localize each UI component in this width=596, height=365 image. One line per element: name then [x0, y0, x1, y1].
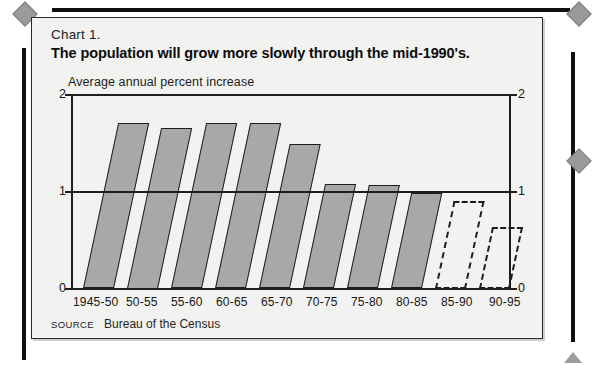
chart-card: Chart 1. The population will grow more s… — [31, 17, 543, 339]
y-tick-left-2 — [65, 94, 72, 96]
x-tick-label-60-65: 60-65 — [216, 295, 248, 309]
corner-diamond-top-right — [566, 1, 591, 26]
bar-70-75 — [303, 184, 356, 288]
x-axis-labels: 1945-50 50-55 55-60 60-65 65-70 70-75 75… — [71, 295, 517, 313]
plot-area — [71, 94, 511, 290]
y-tick-left-0 — [65, 288, 72, 290]
x-tick-label-80-85: 80-85 — [396, 295, 428, 309]
source-note: SOURCE Bureau of the Census — [51, 317, 220, 331]
edge-triangle-bottom-right — [564, 352, 582, 363]
right-black-rule — [571, 52, 575, 342]
y-tick-right-0 — [510, 288, 517, 290]
y-tick-label-left-1: 1 — [50, 184, 66, 198]
chart-number: Chart 1. — [51, 27, 101, 42]
y-tick-right-2 — [510, 94, 517, 96]
bar-80-85 — [391, 193, 442, 288]
y-tick-label-right-0: 0 — [518, 281, 534, 295]
y-tick-label-left-0: 0 — [50, 281, 66, 295]
y-tick-left-1 — [65, 191, 72, 193]
y-tick-label-right-2: 2 — [518, 87, 534, 101]
x-tick-label-75-80: 75-80 — [351, 295, 383, 309]
x-tick-label-50-55: 50-55 — [126, 295, 158, 309]
bar-75-80 — [347, 185, 400, 288]
y-axis-caption: Average annual percent increase — [68, 75, 254, 89]
top-black-rule — [52, 8, 570, 12]
x-tick-label-70-75: 70-75 — [306, 295, 338, 309]
left-black-rule — [22, 48, 26, 360]
y-tick-label-right-1: 1 — [518, 184, 534, 198]
bar-85-90-projected — [435, 201, 485, 289]
y-tick-label-left-2: 2 — [50, 87, 66, 101]
source-text: Bureau of the Census — [104, 317, 220, 331]
source-label: SOURCE — [51, 319, 94, 330]
y-tick-right-1 — [510, 191, 517, 193]
chart-title: The population will grow more slowly thr… — [51, 45, 470, 61]
x-tick-label-1945-50: 1945-50 — [73, 295, 118, 309]
x-tick-label-65-70: 65-70 — [261, 295, 293, 309]
gridline-y-1 — [71, 191, 511, 193]
x-tick-label-90-95: 90-95 — [489, 295, 521, 309]
x-tick-label-85-90: 85-90 — [441, 295, 473, 309]
bar-90-95-projected — [479, 227, 523, 289]
x-tick-label-55-60: 55-60 — [171, 295, 203, 309]
